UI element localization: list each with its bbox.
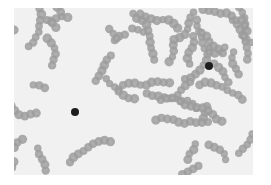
stained-cell (71, 108, 79, 116)
stained-cell (205, 62, 213, 70)
blood-smear-photo (14, 8, 253, 175)
cell-layer (14, 8, 253, 175)
